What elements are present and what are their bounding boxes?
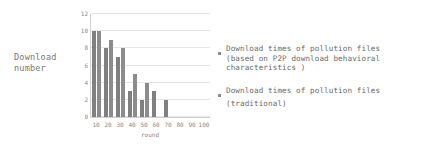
bar bbox=[97, 31, 101, 117]
bar-group bbox=[162, 14, 174, 117]
bar bbox=[164, 100, 168, 117]
x-axis-tick-label: 90 bbox=[186, 121, 198, 128]
bar-group bbox=[127, 14, 139, 117]
legend-entry-traditional: Download times of pollution files (tradi… bbox=[218, 86, 422, 109]
y-axis-tick-label: 12 bbox=[81, 11, 88, 17]
bar-groups bbox=[91, 14, 210, 117]
legend-p2p-line3: characteristics ) bbox=[226, 63, 380, 73]
bar-group bbox=[115, 14, 127, 117]
bar-group bbox=[91, 14, 103, 117]
bar-group bbox=[174, 14, 186, 117]
x-axis-tick-label: 100 bbox=[198, 121, 210, 128]
bar bbox=[116, 57, 120, 117]
y-axis-label-line1: Download bbox=[14, 52, 70, 63]
bar bbox=[121, 48, 125, 117]
bar-chart: 024681012 102030405060708090100 round bbox=[72, 12, 210, 136]
legend-traditional-line1: Download times of pollution files bbox=[226, 86, 380, 96]
x-axis-ticks: 102030405060708090100 bbox=[90, 121, 210, 128]
chart-legend: Download times of pollution files (based… bbox=[218, 44, 422, 122]
bar bbox=[140, 100, 144, 117]
y-axis-tick-label: 8 bbox=[84, 45, 88, 51]
bar-group bbox=[186, 14, 198, 117]
y-axis-tick-label: 2 bbox=[84, 97, 88, 103]
x-axis-tick-label: 60 bbox=[150, 121, 162, 128]
legend-p2p-line2: (based on P2P download behavioral bbox=[226, 54, 380, 64]
bar bbox=[92, 31, 96, 117]
legend-entry-traditional-text: Download times of pollution files (tradi… bbox=[226, 86, 380, 109]
bar-group bbox=[103, 14, 115, 117]
bar-group bbox=[198, 14, 210, 117]
legend-entry-p2p: Download times of pollution files (based… bbox=[218, 44, 422, 73]
chart-figure: Download number 024681012 10203040506070… bbox=[0, 0, 424, 166]
bar bbox=[152, 91, 156, 117]
legend-swatch-icon bbox=[218, 52, 221, 55]
y-axis-tick-label: 4 bbox=[84, 80, 88, 86]
x-axis-tick-label: 30 bbox=[114, 121, 126, 128]
x-axis-tick-label: 70 bbox=[162, 121, 174, 128]
bar-group bbox=[139, 14, 151, 117]
bar bbox=[145, 83, 149, 117]
legend-entry-p2p-text: Download times of pollution files (based… bbox=[226, 44, 380, 73]
x-axis-tick-label: 40 bbox=[126, 121, 138, 128]
bar bbox=[104, 48, 108, 117]
y-axis-label-line2: number bbox=[14, 63, 70, 74]
x-axis-tick-label: 50 bbox=[138, 121, 150, 128]
y-axis-tick-label: 10 bbox=[81, 28, 88, 34]
x-axis-tick-label: 80 bbox=[174, 121, 186, 128]
legend-p2p-line1: Download times of pollution files bbox=[226, 44, 380, 54]
x-axis-tick-label: 10 bbox=[90, 121, 102, 128]
bar bbox=[133, 74, 137, 117]
bar bbox=[128, 91, 132, 117]
y-axis-label: Download number bbox=[14, 52, 70, 74]
y-axis-tick-label: 0 bbox=[84, 114, 88, 120]
plot-area: 024681012 bbox=[90, 14, 210, 118]
y-axis-tick-label: 6 bbox=[84, 63, 88, 69]
bar-group bbox=[151, 14, 163, 117]
legend-traditional-line2: (traditional) bbox=[226, 99, 380, 109]
x-axis-tick-label: 20 bbox=[102, 121, 114, 128]
legend-swatch-icon bbox=[218, 94, 221, 97]
bar bbox=[109, 40, 113, 117]
x-axis-label: round bbox=[90, 131, 210, 138]
